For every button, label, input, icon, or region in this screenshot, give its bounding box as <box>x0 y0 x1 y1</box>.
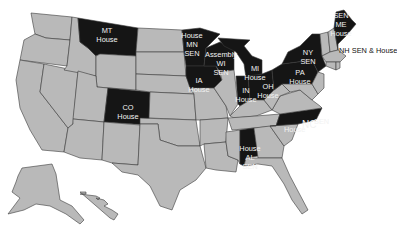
label-wi-chamber: Assembly <box>205 50 237 59</box>
label-oh-state: OH <box>257 82 278 91</box>
label-pa-state: PA <box>289 68 310 77</box>
label-ia: IA House <box>188 76 209 94</box>
label-me-chamber: SEN <box>330 11 351 20</box>
label-mt-state: MT <box>96 26 117 35</box>
label-in-state: IN <box>235 86 256 95</box>
label-wi: Assembly WI SEN <box>205 50 237 77</box>
state-ar <box>200 118 228 146</box>
label-nc-chamber-2: SEN <box>314 117 329 126</box>
label-ny: NY SEN <box>300 48 315 66</box>
label-me: SEN ME House <box>330 11 351 38</box>
label-in: IN House <box>235 86 256 104</box>
label-mt: MT House <box>96 26 117 44</box>
state-sd <box>136 52 186 76</box>
label-oh: OH House <box>257 82 278 100</box>
label-pa: PA House <box>289 68 310 86</box>
label-ia-state: IA <box>188 76 209 85</box>
label-me-state: ME <box>330 20 351 29</box>
state-wy <box>96 54 136 90</box>
label-me-chamber-2: House <box>330 29 351 38</box>
label-mi: MI House <box>244 64 265 82</box>
state-ri <box>336 62 340 70</box>
label-oh-chamber: House <box>257 91 278 100</box>
label-mt-chamber: House <box>96 35 117 44</box>
label-mn-chamber-2: SEN <box>181 49 202 58</box>
label-ny-chamber: SEN <box>300 57 315 66</box>
label-al: House AL SEN <box>239 144 260 171</box>
label-co-state: CO <box>117 103 138 112</box>
label-al-chamber-2: SEN <box>239 162 260 171</box>
state-nm <box>102 122 140 165</box>
label-ny-state: NY <box>300 48 315 57</box>
label-mi-state: MI <box>244 64 265 73</box>
label-al-state: AL <box>239 153 260 162</box>
label-co: CO House <box>117 103 138 121</box>
label-pa-chamber: House <box>289 77 310 86</box>
label-in-chamber: House <box>235 95 256 104</box>
state-hi <box>80 192 118 220</box>
state-ct <box>326 62 336 70</box>
label-mn-state: MN <box>181 40 202 49</box>
label-wi-chamber-2: SEN <box>205 68 237 77</box>
label-co-chamber: House <box>117 112 138 121</box>
label-wi-state: WI <box>205 59 237 68</box>
state-ks <box>149 92 196 120</box>
label-ia-chamber: House <box>188 85 209 94</box>
label-mn: House MN SEN <box>181 31 202 58</box>
label-mi-chamber: House <box>244 73 265 82</box>
label-mn-chamber: House <box>181 31 202 40</box>
label-nh: NH SEN & House <box>339 46 397 55</box>
state-ne <box>136 74 194 94</box>
label-al-chamber: House <box>239 144 260 153</box>
state-ak <box>8 164 84 224</box>
state-nd <box>136 28 184 52</box>
